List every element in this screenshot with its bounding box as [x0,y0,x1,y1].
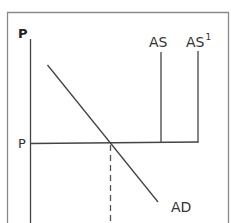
price-level-line [31,142,199,144]
as1-label-base: AS [186,34,205,50]
price-level-label: P [18,136,26,151]
ad-as-diagram: P P AS AS1 AD [0,0,231,223]
y-axis-label: P [18,26,28,41]
as1-label-superscript: 1 [205,32,211,42]
ad-label: AD [171,199,191,215]
ad-curve [48,65,159,202]
as-label: AS [149,34,168,50]
as1-label: AS1 [186,32,211,50]
